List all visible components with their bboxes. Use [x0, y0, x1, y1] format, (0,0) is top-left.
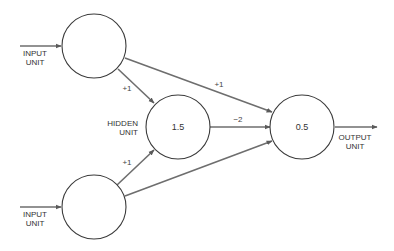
input-bottom-label-line1: INPUT — [23, 210, 47, 219]
neural-network-diagram: 1.5 0.5 INPUT UNIT INPUT UNIT HIDDEN UNI… — [0, 0, 394, 251]
output-label-line2: UNIT — [346, 142, 365, 151]
hidden-value: 1.5 — [172, 122, 185, 132]
weight-input2-hidden: +1 — [122, 158, 132, 167]
weight-input1-hidden: +1 — [122, 84, 132, 93]
edge-input2-hidden — [117, 150, 154, 185]
node-input-top — [62, 14, 126, 78]
input-top-label-line2: UNIT — [26, 58, 45, 67]
input-top-label-line1: INPUT — [23, 49, 47, 58]
weight-input1-output: +1 — [214, 80, 224, 89]
node-input-bottom — [62, 175, 126, 239]
hidden-label-line2: UNIT — [119, 128, 138, 137]
weight-hidden-output: −2 — [233, 115, 243, 124]
input-bottom-label-line2: UNIT — [26, 219, 45, 228]
output-label-line1: OUTPUT — [339, 133, 372, 142]
hidden-label-line1: HIDDEN — [107, 119, 138, 128]
output-value: 0.5 — [296, 122, 309, 132]
